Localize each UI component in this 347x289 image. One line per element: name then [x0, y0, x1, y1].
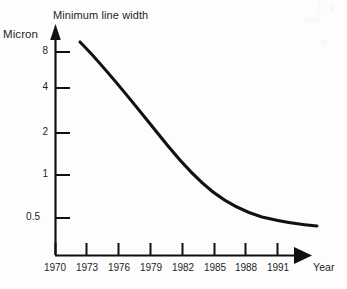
- x-tick-label-1982: 1982: [166, 262, 200, 273]
- x-tick-marks: [56, 243, 278, 255]
- x-tick-label-1988: 1988: [229, 262, 263, 273]
- data-series-line: [80, 42, 317, 226]
- x-tick-label-1979: 1979: [134, 262, 168, 273]
- y-tick-label-0-5: 0.5: [14, 211, 40, 222]
- chart-svg: [0, 0, 347, 289]
- x-tick-label-1970: 1970: [38, 262, 72, 273]
- x-tick-label-1985: 1985: [198, 262, 232, 273]
- x-axis-label: Year: [313, 261, 335, 273]
- y-tick-label-8: 8: [22, 45, 48, 56]
- y-tick-label-2: 2: [22, 126, 48, 137]
- y-axis-label: Micron: [3, 28, 38, 40]
- x-tick-label-1973: 1973: [70, 262, 104, 273]
- y-axis-arrowhead: [50, 24, 61, 40]
- chart-title: Minimum line width: [53, 9, 148, 21]
- x-tick-label-1976: 1976: [102, 262, 136, 273]
- x-axis-arrowhead: [294, 247, 312, 264]
- chart-container: Minimum line width Micron Year 8 4 2 1 0…: [0, 0, 347, 289]
- y-tick-label-4: 4: [22, 81, 48, 92]
- y-tick-marks: [56, 52, 70, 218]
- x-tick-label-1991: 1991: [261, 262, 295, 273]
- y-tick-label-1: 1: [22, 168, 48, 179]
